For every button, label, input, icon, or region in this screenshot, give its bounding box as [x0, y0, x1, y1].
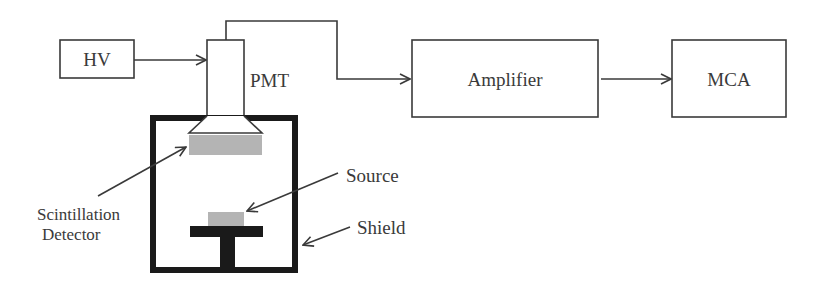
amplifier-label: Amplifier [468, 69, 544, 90]
detector-label-line2: Detector [42, 225, 101, 244]
hv-label: HV [83, 49, 111, 70]
hv-block: HV [60, 40, 134, 78]
detector-pointer-arrow [98, 147, 186, 196]
pmt-label: PMT [250, 70, 289, 91]
shield-label: Shield [357, 217, 406, 238]
shield-pointer-arrow [303, 227, 350, 245]
mca-label: MCA [707, 69, 751, 90]
detector-diagram: HV PMT Amplifier MCA Scintillation Detec… [0, 0, 822, 292]
pmt-block: PMT [207, 40, 289, 116]
source-stand [190, 226, 263, 270]
amplifier-block: Amplifier [412, 40, 598, 117]
radioactive-source [208, 212, 244, 226]
detector-label-line1: Scintillation [37, 205, 121, 224]
source-label: Source [346, 165, 399, 186]
scintillation-crystal [189, 135, 262, 155]
mca-block: MCA [672, 40, 786, 117]
